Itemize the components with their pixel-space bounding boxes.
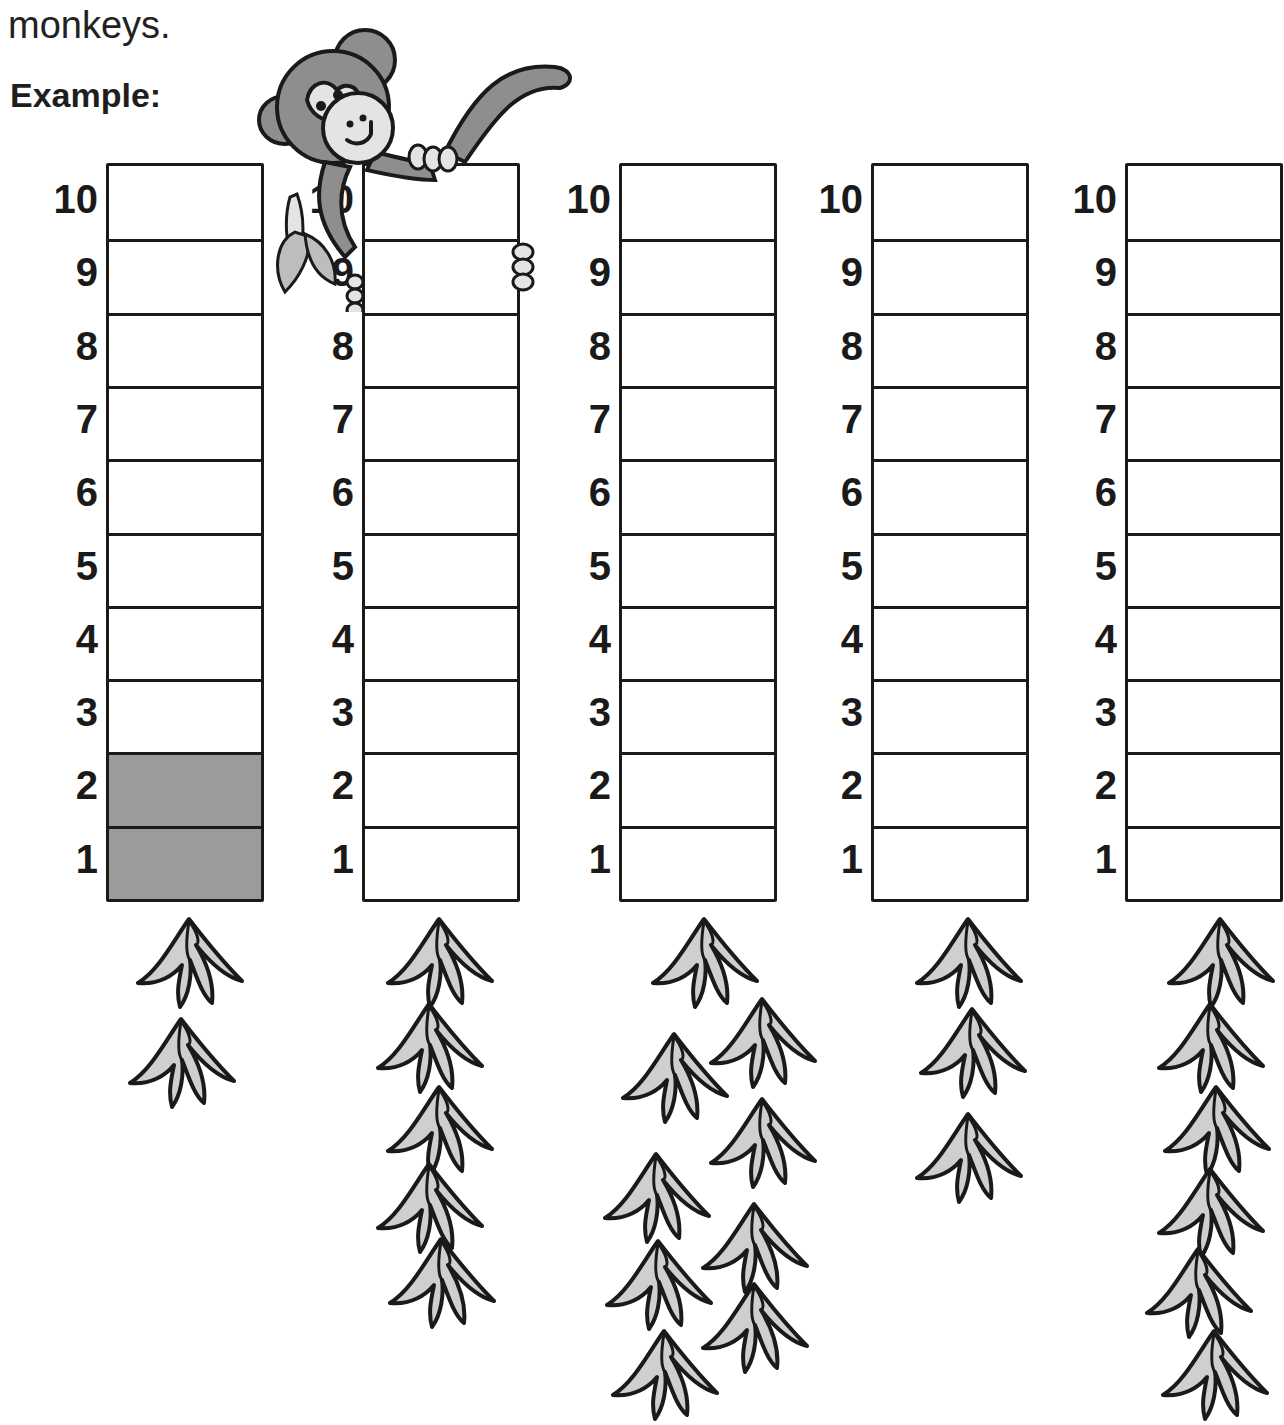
- graph-cell-4[interactable]: [874, 606, 1026, 679]
- scale-label: 6: [1057, 472, 1117, 512]
- banana-bunch-icon: [913, 1110, 1023, 1205]
- bar-column: [619, 163, 777, 902]
- scale-label: 7: [803, 399, 863, 439]
- graph-cell-2[interactable]: [365, 752, 517, 825]
- graph-cell-7[interactable]: [874, 386, 1026, 459]
- graph-cell-4: [109, 606, 261, 679]
- scale-label: 2: [1057, 765, 1117, 805]
- graph-cell-3[interactable]: [874, 679, 1026, 752]
- graph-cell-9[interactable]: [365, 239, 517, 312]
- graph-cell-9[interactable]: [874, 239, 1026, 312]
- bar-column: [362, 163, 520, 902]
- graph-cell-2[interactable]: [622, 752, 774, 825]
- bar-graph-graph-3: [619, 163, 775, 900]
- graph-cell-10[interactable]: [365, 166, 517, 239]
- scale-label: 9: [294, 252, 354, 292]
- scale-label: 5: [1057, 546, 1117, 586]
- graph-cell-4[interactable]: [365, 606, 517, 679]
- graph-cell-4[interactable]: [1128, 606, 1280, 679]
- graph-cell-7[interactable]: [1128, 386, 1280, 459]
- scale-label: 6: [38, 472, 98, 512]
- scale-label: 8: [1057, 326, 1117, 366]
- scale-label: 9: [551, 252, 611, 292]
- graph-cell-8: [109, 313, 261, 386]
- scale-label: 10: [1057, 179, 1117, 219]
- graph-cell-6: [109, 459, 261, 532]
- graph-cell-2[interactable]: [874, 752, 1026, 825]
- scale-label: 1: [294, 839, 354, 879]
- scale-label: 1: [38, 839, 98, 879]
- graph-cell-10[interactable]: [874, 166, 1026, 239]
- graph-cell-7[interactable]: [622, 386, 774, 459]
- scale-label: 5: [294, 546, 354, 586]
- banana-bunch-icon: [1155, 1000, 1265, 1095]
- scale-label: 9: [803, 252, 863, 292]
- banana-bunch-icon: [1165, 915, 1275, 1010]
- graph-cell-8[interactable]: [365, 313, 517, 386]
- graph-cell-3[interactable]: [365, 679, 517, 752]
- bar-graph-example: [106, 163, 262, 900]
- graph-cell-9[interactable]: [622, 239, 774, 312]
- scale-label: 6: [294, 472, 354, 512]
- scale-label: 7: [38, 399, 98, 439]
- graph-cell-1[interactable]: [622, 826, 774, 899]
- graph-cell-4[interactable]: [622, 606, 774, 679]
- graph-cell-1: [109, 826, 261, 899]
- graph-cell-1[interactable]: [874, 826, 1026, 899]
- scale-label: 4: [1057, 619, 1117, 659]
- scale-label: 1: [1057, 839, 1117, 879]
- graph-cell-5[interactable]: [1128, 533, 1280, 606]
- banana-bunch-icon: [386, 1235, 496, 1330]
- scale-label: 10: [551, 179, 611, 219]
- banana-bunch-icon: [707, 1095, 817, 1190]
- graph-cell-5[interactable]: [622, 533, 774, 606]
- graph-cell-6[interactable]: [874, 459, 1026, 532]
- graph-cell-1[interactable]: [365, 826, 517, 899]
- banana-bunch-icon: [609, 1327, 719, 1422]
- scale-label: 3: [1057, 692, 1117, 732]
- example-label: Example:: [10, 76, 161, 115]
- graph-cell-2: [109, 752, 261, 825]
- bar-column: [106, 163, 264, 902]
- graph-cell-10[interactable]: [1128, 166, 1280, 239]
- graph-cell-9: [109, 239, 261, 312]
- banana-bunch-icon: [1159, 1327, 1269, 1422]
- scale-label: 7: [551, 399, 611, 439]
- scale-label: 2: [803, 765, 863, 805]
- banana-bunch-icon: [601, 1150, 711, 1245]
- graph-cell-2[interactable]: [1128, 752, 1280, 825]
- scale-label: 2: [294, 765, 354, 805]
- scale-label: 10: [803, 179, 863, 219]
- graph-cell-9[interactable]: [1128, 239, 1280, 312]
- graph-cell-3[interactable]: [1128, 679, 1280, 752]
- graph-cell-10[interactable]: [622, 166, 774, 239]
- graph-cell-1[interactable]: [1128, 826, 1280, 899]
- graph-cell-3[interactable]: [622, 679, 774, 752]
- scale-label: 5: [551, 546, 611, 586]
- graph-cell-8[interactable]: [874, 313, 1026, 386]
- scale-label: 4: [38, 619, 98, 659]
- graph-cell-7[interactable]: [365, 386, 517, 459]
- graph-cell-5[interactable]: [365, 533, 517, 606]
- graph-cell-10: [109, 166, 261, 239]
- graph-cell-8[interactable]: [622, 313, 774, 386]
- graph-cell-5[interactable]: [874, 533, 1026, 606]
- scale-label: 1: [551, 839, 611, 879]
- banana-bunch-icon: [126, 1015, 236, 1110]
- scale-label: 9: [38, 252, 98, 292]
- scale-label: 4: [551, 619, 611, 659]
- banana-bunch-icon: [374, 1000, 484, 1095]
- graph-cell-6[interactable]: [1128, 459, 1280, 532]
- banana-bunch-icon: [1161, 1083, 1271, 1178]
- scale-label: 1: [803, 839, 863, 879]
- scale-label: 2: [551, 765, 611, 805]
- graph-cell-7: [109, 386, 261, 459]
- graph-cell-6[interactable]: [365, 459, 517, 532]
- scale-label: 3: [551, 692, 611, 732]
- banana-bunch-icon: [603, 1237, 713, 1332]
- graph-cell-6[interactable]: [622, 459, 774, 532]
- scale-label: 8: [38, 326, 98, 366]
- scale-label: 8: [294, 326, 354, 366]
- graph-cell-8[interactable]: [1128, 313, 1280, 386]
- banana-bunch-icon: [1143, 1245, 1253, 1340]
